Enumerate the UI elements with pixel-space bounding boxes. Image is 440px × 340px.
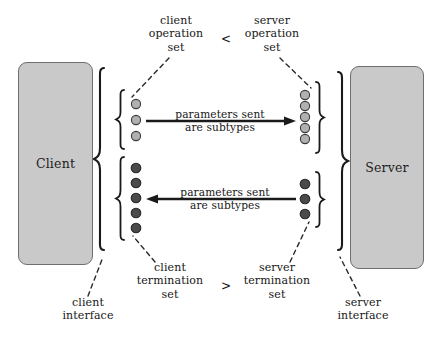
client-operation-set-caption: client operation set: [137, 14, 215, 54]
client-interface-caption: client interface: [48, 296, 128, 323]
server-termination-dots: [300, 179, 310, 219]
server-interface-caption: server interface: [323, 296, 403, 323]
client-operation-set-brace: [116, 90, 124, 149]
leader-client-interface: [88, 257, 103, 296]
client-node-label: Client: [36, 156, 75, 171]
server-termination-set-brace: [316, 172, 324, 227]
leader-client-termination-set: [133, 236, 155, 262]
server-node-label: Server: [365, 160, 409, 175]
server-operation-dots: [300, 90, 309, 143]
client-node[interactable]: Client: [18, 62, 93, 265]
diagram-canvas: Client Server client operation set < ser…: [0, 0, 440, 340]
server-termination-set-caption: server termination set: [232, 261, 322, 301]
server-node[interactable]: Server: [350, 66, 424, 269]
server-operation-set-caption: server operation set: [233, 14, 311, 54]
client-termination-dots: [131, 163, 141, 233]
operation-set-relation: <: [221, 32, 231, 46]
server-interface-brace: [338, 72, 348, 250]
bottom-arrow-caption: parameters sent are subtypes: [165, 186, 285, 211]
client-termination-set-brace: [116, 157, 124, 240]
client-interface-brace: [94, 68, 104, 250]
leader-server-termination-set: [290, 222, 309, 262]
leader-client-operation-set: [132, 58, 169, 97]
client-termination-set-caption: client termination set: [125, 261, 215, 301]
client-operation-dots: [131, 99, 140, 140]
top-arrow-caption: parameters sent are subtypes: [160, 108, 280, 133]
termination-set-relation: >: [221, 279, 231, 293]
server-operation-set-brace: [316, 82, 324, 153]
leader-server-operation-set: [280, 58, 311, 88]
